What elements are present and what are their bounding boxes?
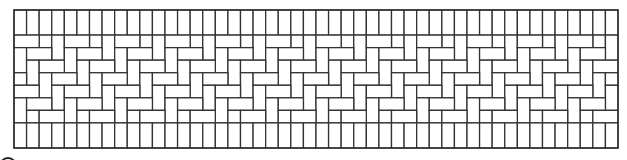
soldier-brick	[102, 10, 115, 35]
herringbone-brick-vertical	[543, 35, 556, 48]
soldier-brick	[165, 123, 178, 148]
herringbone-brick-horizontal	[178, 48, 203, 61]
soldier-brick	[127, 10, 140, 35]
herringbone-brick-horizontal	[203, 73, 228, 86]
soldier-brick	[329, 123, 342, 148]
soldier-brick	[241, 10, 254, 35]
soldier-brick	[102, 123, 115, 148]
herringbone-brick-horizontal	[127, 98, 152, 111]
herringbone-brick-vertical	[64, 48, 77, 73]
soldier-brick	[505, 123, 518, 148]
soldier-brick	[316, 123, 329, 148]
herringbone-brick-horizontal	[90, 60, 115, 73]
herringbone-brick-vertical	[555, 35, 568, 60]
soldier-brick	[429, 10, 442, 35]
soldier-brick	[467, 123, 480, 148]
herringbone-brick-vertical	[215, 48, 228, 73]
soldier-brick	[580, 10, 593, 35]
soldier-brick	[379, 10, 392, 35]
herringbone-brick-vertical	[127, 110, 140, 123]
soldier-brick	[605, 10, 618, 35]
soldier-brick	[543, 10, 556, 35]
herringbone-brick-horizontal	[303, 73, 328, 86]
soldier-brick	[215, 10, 228, 35]
herringbone-brick-vertical	[39, 35, 52, 48]
herringbone-brick-vertical	[354, 85, 367, 110]
soldier-brick	[354, 123, 367, 148]
herringbone-brick-horizontal	[266, 35, 291, 48]
herringbone-brick-horizontal	[165, 35, 190, 48]
soldier-brick	[52, 123, 65, 148]
herringbone-brick-vertical	[417, 48, 430, 73]
herringbone-brick-horizontal	[580, 98, 605, 111]
soldier-brick	[404, 123, 417, 148]
herringbone-brick-horizontal	[366, 85, 391, 98]
soldier-brick	[480, 10, 493, 35]
soldier-brick	[253, 123, 266, 148]
soldier-brick	[241, 123, 254, 148]
herringbone-brick-horizontal	[115, 85, 140, 98]
herringbone-brick-vertical	[467, 98, 480, 123]
soldier-brick	[555, 10, 568, 35]
herringbone-brick-vertical	[366, 48, 379, 73]
herringbone-brick-horizontal	[341, 60, 366, 73]
herringbone-brick-horizontal	[568, 35, 593, 48]
soldier-brick	[517, 10, 530, 35]
herringbone-brick-vertical	[228, 60, 241, 85]
soldier-brick	[178, 10, 191, 35]
soldier-brick	[14, 123, 27, 148]
soldier-brick	[530, 10, 543, 35]
soldier-brick	[366, 123, 379, 148]
herringbone-brick-vertical	[228, 110, 241, 123]
soldier-brick	[64, 10, 77, 35]
soldier-brick	[492, 10, 505, 35]
soldier-brick	[568, 10, 581, 35]
soldier-brick	[215, 123, 228, 148]
herringbone-brick-vertical	[404, 35, 417, 60]
herringbone-brick-vertical	[14, 48, 27, 73]
herringbone-brick-horizontal	[480, 98, 505, 111]
soldier-brick	[266, 10, 279, 35]
herringbone-brick-horizontal	[605, 73, 618, 86]
herringbone-brick-horizontal	[480, 48, 505, 61]
soldier-brick	[417, 123, 430, 148]
herringbone-brick-vertical	[278, 60, 291, 85]
herringbone-brick-vertical	[77, 110, 90, 123]
soldier-brick	[442, 123, 455, 148]
herringbone-brick-horizontal	[102, 73, 127, 86]
herringbone-brick-vertical	[530, 110, 543, 123]
soldier-brick	[266, 123, 279, 148]
herringbone-brick-vertical	[278, 110, 291, 123]
soldier-brick	[555, 123, 568, 148]
soldier-brick	[291, 123, 304, 148]
herringbone-brick-horizontal	[291, 110, 316, 123]
soldier-brick	[39, 10, 52, 35]
herringbone-brick-horizontal	[127, 48, 152, 61]
herringbone-brick-vertical	[165, 98, 178, 123]
herringbone-brick-vertical	[64, 98, 77, 123]
herringbone-brick-horizontal	[568, 85, 593, 98]
herringbone-brick-vertical	[530, 60, 543, 85]
herringbone-brick-horizontal	[593, 60, 618, 73]
herringbone-brick-horizontal	[152, 73, 177, 86]
herringbone-brick-horizontal	[379, 48, 404, 61]
herringbone-brick-vertical	[52, 35, 65, 60]
soldier-brick	[228, 123, 241, 148]
soldier-brick	[454, 123, 467, 148]
soldier-brick	[253, 10, 266, 35]
herringbone-brick-horizontal	[27, 98, 52, 111]
herringbone-brick-horizontal	[90, 110, 115, 123]
herringbone-brick-horizontal	[467, 85, 492, 98]
herringbone-brick-vertical	[190, 73, 203, 98]
herringbone-brick-vertical	[505, 35, 518, 60]
herringbone-brick-horizontal	[329, 98, 354, 111]
herringbone-brick-horizontal	[404, 73, 429, 86]
herringbone-brick-horizontal	[316, 85, 341, 98]
herringbone-brick-vertical	[580, 60, 593, 85]
herringbone-brick-horizontal	[392, 110, 417, 123]
soldier-brick	[568, 123, 581, 148]
herringbone-brick-vertical	[291, 35, 304, 48]
soldier-brick	[27, 10, 40, 35]
soldier-brick	[517, 123, 530, 148]
herringbone-brick-vertical	[303, 85, 316, 110]
